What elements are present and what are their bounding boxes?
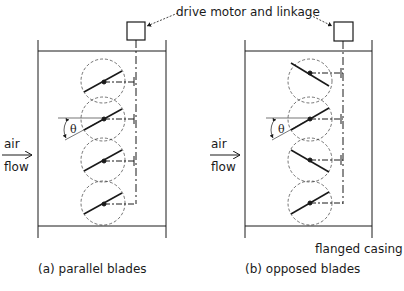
caption-opposed: (b) opposed blades: [245, 262, 360, 276]
caption-parallel: (a) parallel blades: [38, 262, 147, 276]
panel-parallel-blades: [2, 22, 166, 238]
flow-label: flow: [211, 160, 236, 174]
air-label: air: [211, 137, 227, 151]
flow-label: flow: [4, 160, 29, 174]
drive-motor-callout: drive motor and linkage: [176, 5, 320, 19]
drive-motor-box: [334, 22, 353, 41]
air-label: air: [4, 137, 20, 151]
flanged-casing-callout: flanged casing: [315, 242, 403, 256]
drive-motor-box: [127, 22, 145, 40]
angle-arc: [64, 122, 66, 138]
panel-opposed-blades: [147, 13, 372, 238]
theta-label: θ: [70, 123, 77, 136]
theta-label: θ: [278, 123, 285, 136]
drive-leader-left: [147, 13, 178, 26]
angle-arc: [271, 122, 273, 138]
damper-diagram: θ air flow (a) parallel blades: [0, 0, 404, 291]
